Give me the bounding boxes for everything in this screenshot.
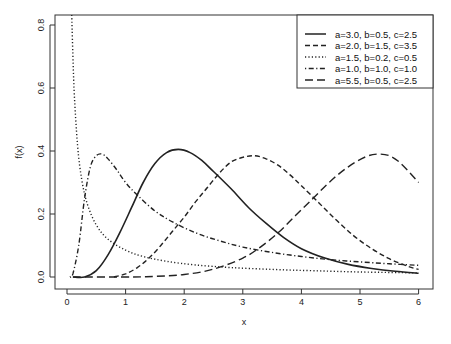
y-tick-label: 0.2 [36, 208, 46, 221]
y-tick-label: 0.6 [36, 82, 46, 95]
y-axis: 0.00.20.40.60.8 [36, 19, 55, 284]
x-axis: 0123456 [64, 289, 421, 307]
x-axis-label: x [242, 317, 247, 327]
series-line-longdash [73, 154, 419, 277]
series-line-dashed [114, 156, 419, 277]
x-tick-label: 5 [357, 297, 362, 307]
legend: a=3.0, b=0.5, c=2.5a=2.0, b=1.5, c=3.5a=… [297, 15, 433, 88]
series-line-dotdash [70, 154, 419, 277]
y-tick-label: 0.4 [36, 145, 46, 158]
x-tick-label: 0 [64, 297, 69, 307]
legend-label: a=1.0, b=1.0, c=1.0 [335, 63, 417, 74]
legend-label: a=3.0, b=0.5, c=2.5 [335, 29, 417, 40]
y-axis-label: f(x) [14, 146, 24, 159]
legend-label: a=2.0, b=1.5, c=3.5 [335, 40, 417, 51]
legend-label: a=1.5, b=0.2, c=0.5 [335, 52, 417, 63]
x-tick-label: 6 [416, 297, 421, 307]
x-tick-label: 4 [299, 297, 304, 307]
x-tick-label: 1 [123, 297, 128, 307]
chart: 0123456 0.00.20.40.60.8 x f(x) a=3.0, b=… [0, 0, 451, 344]
series-line-solid [73, 149, 419, 277]
x-tick-label: 3 [240, 297, 245, 307]
y-tick-label: 0.8 [36, 19, 46, 32]
x-tick-label: 2 [182, 297, 187, 307]
legend-label: a=5.5, b=0.5, c=2.5 [335, 75, 417, 86]
y-tick-label: 0.0 [36, 271, 46, 284]
